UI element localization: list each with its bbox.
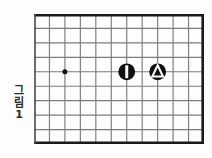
grid-svg — [34, 14, 204, 144]
white-bar-glyph — [125, 65, 128, 78]
figure-caption: 그 림 1 — [8, 86, 30, 138]
data-point-triangle-circle[interactable] — [149, 63, 166, 80]
caption-number: 1 — [15, 110, 23, 121]
data-point-dot[interactable] — [62, 69, 67, 74]
data-point-bar-circle[interactable] — [118, 63, 135, 80]
plot-area — [34, 14, 204, 144]
figure-container: 그 림 1 — [0, 0, 212, 158]
plot-background — [34, 14, 204, 144]
caption-char-2: 림 — [14, 98, 24, 110]
